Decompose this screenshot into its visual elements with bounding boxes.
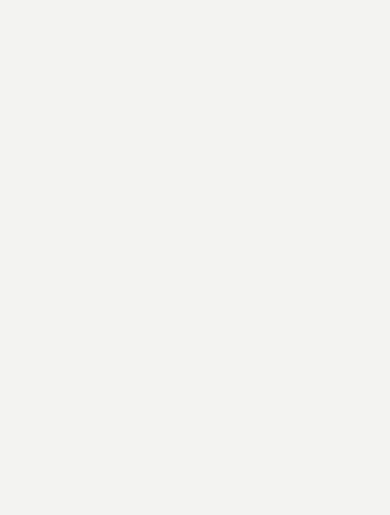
diagram-canvas [0, 0, 390, 515]
